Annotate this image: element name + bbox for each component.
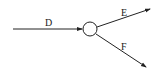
label-e: E xyxy=(121,7,127,18)
junction-node xyxy=(83,22,97,36)
label-f: F xyxy=(121,41,127,52)
flow-diagram: D E F xyxy=(0,0,159,76)
label-d: D xyxy=(45,17,52,28)
